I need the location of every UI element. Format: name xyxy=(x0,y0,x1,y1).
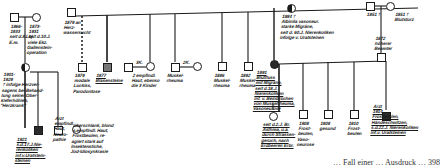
left-uncle-symbol xyxy=(67,8,76,17)
child-1908a-symbol xyxy=(299,110,308,119)
child-asthma-label: seit d.2.J. Br. Asthma, u.a. durch Stras… xyxy=(261,122,297,148)
great-aunt-symbol xyxy=(287,4,296,13)
child-1908b-symbol xyxy=(324,110,333,119)
child-1910-label: 1910 Frost- beulen xyxy=(347,121,363,137)
grandfather-right-label: 1851 † xyxy=(367,12,381,17)
left-mother-label: 1901- 1929 † infolge Herzver- sagens bei… xyxy=(0,72,45,108)
grandmother-right-symbol xyxy=(386,2,395,11)
child-girl-label: überschlank, blond s.empfindl. Haut, Fro… xyxy=(70,123,114,154)
grandfather-left-symbol xyxy=(10,13,19,22)
sib-1877-label: 1877 Blasensteine xyxy=(95,73,123,83)
figure-caption: … Fall einer … Ausdruck … 398 xyxy=(333,158,440,167)
sib-1879-symbol xyxy=(78,63,87,72)
sib-aunt-label: 2 empfindl. Haut, ebenso die 3 Kinder xyxy=(131,73,160,89)
sib-1877-symbol xyxy=(103,63,112,72)
spouse-2k-label: 2K. xyxy=(183,60,190,65)
sib-1886-label: 1886 Muskel- rheuma xyxy=(213,73,231,89)
child-1921-label: 1921 s.d.17.J.Nie- renkoliken inf.v.Urat… xyxy=(15,137,48,163)
child-asthma-symbol xyxy=(269,112,278,121)
child-1908b-label: 1908 gesund xyxy=(319,121,336,131)
spouse-3k-label: 3K. xyxy=(136,60,143,65)
left-uncle-label: 1879 an Herz- wassersucht xyxy=(63,20,91,36)
index-father-symbol xyxy=(377,53,386,62)
spouse-circle-2 xyxy=(193,62,202,71)
sib-aunt-symbol xyxy=(146,62,155,71)
grandmother-left-label: 1873- 1931 seit d.10.J. viele Ekz. Galle… xyxy=(26,24,54,55)
left-mother-symbol xyxy=(21,63,30,72)
child-1921-symbol xyxy=(34,126,43,135)
index-mother-1891-symbol xyxy=(270,60,279,69)
child-1914-label: Arzt 1914 Frostbeulen, Händeschwitzen, s… xyxy=(370,104,421,135)
child-1910-symbol xyxy=(350,110,359,119)
sib-1886-symbol xyxy=(218,62,227,71)
sib-1892-symbol xyxy=(244,62,253,71)
index-father-label: 1872 höherer Beamter xyxy=(374,36,393,52)
child-1908a-label: 1908 Frost- beulen, Vaso- neurose xyxy=(297,121,317,147)
grandfather-right-symbol xyxy=(366,2,375,11)
grandmother-right-label: 1851 † Blutsturz xyxy=(394,12,414,22)
great-aunt-label: 1884 † Albinila vasoneur. starke Migräne… xyxy=(280,14,336,40)
grandmother-left-symbol xyxy=(32,13,41,22)
spouse-square-1 xyxy=(124,63,133,72)
index-mother-1891-label: 1891 Blutfluss mit Migräne, seit d.18.J.… xyxy=(253,70,299,112)
sib-muskel-symbol xyxy=(171,63,180,72)
sib-muskel-label: Muskel- rheuma xyxy=(166,73,184,83)
